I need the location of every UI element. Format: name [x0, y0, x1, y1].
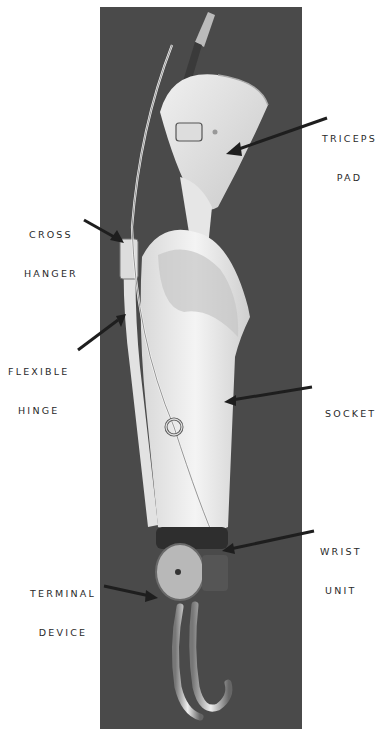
label-line: HANGER	[24, 267, 78, 280]
harness-strap	[195, 12, 215, 47]
prosthesis-photo	[100, 7, 302, 729]
label-line: UNIT	[320, 584, 362, 597]
label-triceps-pad: TRICEPS PAD	[322, 106, 377, 210]
label-terminal-device: TERMINAL DEVICE	[30, 561, 96, 665]
label-flexible-hinge: FLEXIBLE HINGE	[8, 339, 69, 443]
label-line: TRICEPS	[322, 132, 377, 145]
label-line: TERMINAL	[30, 587, 96, 600]
triceps-pad-shape	[160, 74, 268, 210]
prosthesis-figure: TRICEPS PAD CROSS HANGER FLEXIBLE HINGE …	[0, 0, 392, 733]
wrist-unit-shape	[156, 527, 228, 549]
label-line: FLEXIBLE	[8, 365, 69, 378]
label-socket: SOCKET	[325, 381, 376, 446]
label-line: HINGE	[8, 404, 69, 417]
label-line: CROSS	[24, 228, 78, 241]
label-line: SOCKET	[325, 407, 376, 420]
label-wrist-unit: WRIST UNIT	[320, 519, 362, 623]
label-line: DEVICE	[30, 626, 96, 639]
hook-finger-right	[193, 605, 229, 708]
prosthesis-illustration	[100, 7, 302, 729]
buckle	[176, 123, 202, 141]
label-line: PAD	[322, 171, 377, 184]
label-cross-hanger: CROSS HANGER	[24, 202, 78, 306]
label-line: WRIST	[320, 545, 362, 558]
